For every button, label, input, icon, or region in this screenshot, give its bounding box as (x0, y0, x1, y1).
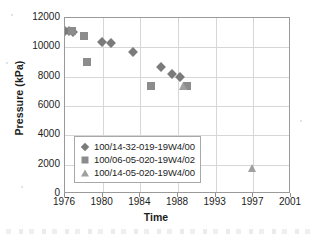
x-axis-tick-label: 2001 (270, 196, 310, 207)
x-axis-tick-mark (139, 193, 140, 197)
data-point (83, 58, 91, 66)
scan-speck (11, 14, 13, 16)
vertical-gridline (216, 18, 217, 192)
scan-speck (6, 62, 8, 64)
chart-legend: 100/14-32-019-19W4/00100/06-05-020-19W4/… (74, 136, 201, 183)
data-point (156, 62, 166, 72)
legend-item-label: 100/14-32-019-19W4/00 (94, 141, 195, 152)
x-axis-tick-label: 1980 (82, 196, 122, 207)
data-point (80, 32, 88, 40)
y-axis-tick-label: 6000 (14, 100, 60, 110)
legend-item[interactable]: 100/14-32-019-19W4/00 (79, 140, 195, 153)
scan-artifact-line (0, 229, 312, 234)
square-marker-icon (79, 154, 91, 166)
x-axis-tick-label: 1993 (195, 196, 235, 207)
x-axis-tick-mark (215, 193, 216, 197)
scan-speck (300, 120, 302, 122)
x-axis-tick-mark (102, 193, 103, 197)
data-point (106, 38, 116, 48)
scan-speck (21, 186, 23, 188)
y-axis-tick-label: 2000 (14, 159, 60, 169)
diamond-marker-icon (79, 141, 91, 153)
legend-item-label: 100/06-05-020-19W4/02 (94, 154, 195, 165)
y-axis-tick-label: 4000 (14, 129, 60, 139)
y-axis-tick-label: 8000 (14, 71, 60, 81)
x-axis-tick-label: 1988 (157, 196, 197, 207)
y-axis-tick-label: 10000 (14, 41, 60, 51)
x-axis-title: Time (0, 211, 312, 223)
x-axis-tick-labels: 1976198019841988199319972001 (0, 196, 312, 210)
x-axis-tick-mark (177, 193, 178, 197)
data-point (128, 47, 138, 57)
x-axis-tick-mark (64, 193, 65, 197)
x-axis-tick-label: 1976 (44, 196, 84, 207)
legend-item[interactable]: 100/14-05-020-19W4/00 (79, 166, 195, 179)
data-point (179, 82, 187, 90)
pressure-vs-time-chart: Pressure (kPa) 0200040006000800010000120… (0, 0, 312, 236)
x-axis-tick-mark (252, 193, 253, 197)
x-axis-tick-mark (290, 193, 291, 197)
y-axis-tick-label: 12000 (14, 12, 60, 22)
horizontal-gridline (65, 106, 289, 107)
triangle-marker-icon (79, 167, 91, 179)
data-point (68, 27, 76, 35)
x-axis-tick-label: 1997 (232, 196, 272, 207)
data-point (248, 164, 256, 172)
x-axis-tick-label: 1984 (119, 196, 159, 207)
horizontal-gridline (65, 47, 289, 48)
data-point (147, 82, 155, 90)
legend-item[interactable]: 100/06-05-020-19W4/02 (79, 153, 195, 166)
legend-item-label: 100/14-05-020-19W4/00 (94, 167, 195, 178)
